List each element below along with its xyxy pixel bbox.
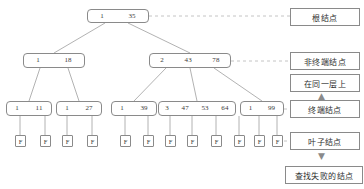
leaf-label: F: [276, 138, 280, 145]
btree-terminal-node-2[interactable]: 1 27: [56, 101, 102, 116]
annotation-connectors: [149, 16, 290, 141]
annotation-root-node: 根结点: [290, 8, 360, 26]
node-cell: 64: [215, 105, 235, 112]
btree-leaf-node[interactable]: F: [234, 135, 245, 147]
leaf-label: F: [238, 138, 242, 145]
edge-nl-t2: [68, 68, 79, 101]
annotation-text: 非终端结点: [304, 56, 346, 67]
btree-leaf-node[interactable]: F: [120, 135, 131, 147]
node-cell: 43: [174, 57, 202, 64]
leaf-label: F: [258, 138, 262, 145]
btree-terminal-node-4[interactable]: 3 47 53 64: [158, 101, 236, 116]
node-cell: 35: [116, 13, 148, 20]
node-cell: 27: [77, 105, 101, 112]
btree-leaf-node[interactable]: F: [15, 135, 26, 147]
leaf-label: F: [91, 138, 95, 145]
btree-leaf-node[interactable]: F: [254, 135, 265, 147]
btree-leaf-node[interactable]: F: [143, 135, 154, 147]
annotation-same-level: 在同一层上: [290, 74, 360, 92]
btree-internal-node-left[interactable]: 1 18: [23, 53, 85, 68]
node-cell: 1: [88, 13, 116, 20]
node-cell: 1: [24, 57, 52, 64]
btree-terminal-node-3[interactable]: 1 39: [111, 101, 157, 116]
node-cell: 1: [7, 105, 27, 112]
btree-leaf-node[interactable]: F: [165, 135, 176, 147]
tree-edges: [20, 23, 277, 135]
edge-root-right: [128, 23, 190, 53]
annotation-leaf-node: 叶子结点: [290, 132, 360, 150]
leaf-label: F: [191, 138, 195, 145]
node-cell: 1: [241, 105, 260, 112]
node-cell: 11: [27, 105, 51, 112]
node-cell: 53: [195, 105, 215, 112]
btree-terminal-node-5[interactable]: 1 99: [240, 101, 284, 116]
annotation-text: 叶子结点: [308, 136, 342, 147]
btree-leaf-node[interactable]: F: [87, 135, 98, 147]
node-cell: 78: [202, 57, 230, 64]
annotation-text: 终端结点: [308, 104, 342, 115]
node-cell: 18: [52, 57, 84, 64]
node-cell: 99: [260, 105, 283, 112]
btree-leaf-node[interactable]: F: [272, 135, 283, 147]
btree-diagram: 1 35 1 18 2 43 78 1 11 1 27 1 39 3 47 53…: [0, 0, 364, 189]
edge-nr-t3: [134, 68, 166, 101]
edge-layer: [0, 0, 364, 189]
leaf-label: F: [19, 138, 23, 145]
annotation-text: 查找失败的结点: [295, 170, 354, 181]
edge-nr-t4: [190, 68, 197, 101]
annotation-text: 根结点: [312, 12, 337, 23]
annotation-search-failure-node: 查找失败的结点: [285, 166, 363, 184]
annotation-text: 在同一层上: [304, 78, 346, 89]
leaf-label: F: [215, 138, 219, 145]
btree-leaf-node[interactable]: F: [40, 135, 51, 147]
leaf-label: F: [44, 138, 48, 145]
arrow-down-icon: ▼: [318, 152, 325, 161]
annotation-nonterminal-node: 非终端结点: [290, 52, 360, 70]
edge-nr-t5: [214, 68, 262, 101]
btree-internal-node-right[interactable]: 2 43 78: [149, 53, 231, 68]
leaf-label: F: [124, 138, 128, 145]
node-cell: 1: [112, 105, 132, 112]
leaf-label: F: [169, 138, 173, 145]
node-cell: 47: [175, 105, 195, 112]
btree-leaf-node[interactable]: F: [187, 135, 198, 147]
node-cell: 39: [132, 105, 156, 112]
node-cell: 2: [150, 57, 174, 64]
btree-leaf-node[interactable]: F: [62, 135, 73, 147]
btree-leaf-node[interactable]: F: [211, 135, 222, 147]
edge-nl-t1: [29, 68, 40, 101]
annotation-terminal-node: 终端结点: [290, 100, 360, 118]
leaf-label: F: [147, 138, 151, 145]
node-cell: 1: [57, 105, 77, 112]
arrow-down-glyph: ▼: [318, 151, 325, 161]
edge-root-left: [54, 23, 105, 53]
btree-terminal-node-1[interactable]: 1 11: [6, 101, 52, 116]
node-cell: 3: [159, 105, 175, 112]
leaf-label: F: [66, 138, 70, 145]
btree-root-node[interactable]: 1 35: [87, 9, 149, 23]
